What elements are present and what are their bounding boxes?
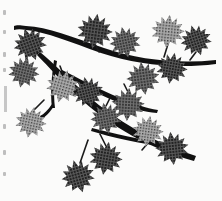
maple-branch-illustration [0, 0, 222, 201]
illustration-canvas: Maple branch silhouette Tree branch with… [0, 0, 222, 201]
